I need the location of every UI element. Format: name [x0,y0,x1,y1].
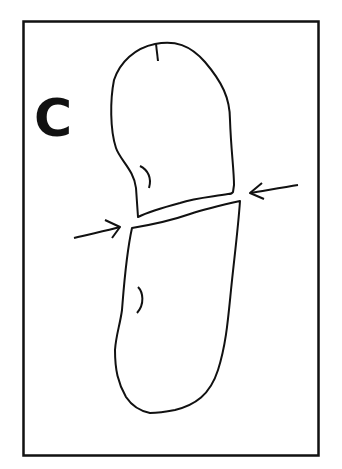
frame [24,22,319,456]
pole-mark [156,44,158,61]
upper-cell-mark [140,166,150,188]
right-arrow [250,183,298,199]
lower-cell [115,201,240,413]
upper-cell [111,43,234,217]
panel-label: C [34,92,72,144]
lower-cell-mark [137,287,142,313]
diagram-canvas [0,0,342,469]
left-arrow [74,220,120,238]
